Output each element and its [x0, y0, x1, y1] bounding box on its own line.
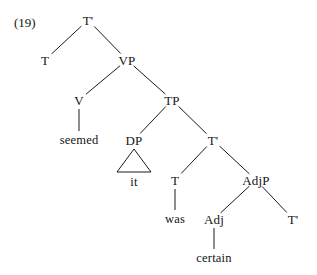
tree-node-dp: DP [125, 134, 142, 147]
tree-node-certain: certain [196, 252, 231, 265]
tree-edge-VP-V [86, 66, 120, 94]
tree-edge-Tbar-T [181, 147, 207, 174]
tree-node-tp: TP [164, 94, 180, 107]
tree-node-t: T [171, 174, 179, 187]
tree-edge-TP-Tbar [178, 106, 206, 133]
tree-node-tbar: T' [208, 134, 219, 147]
tree-node-tbar: T' [83, 14, 94, 27]
tree-edge-VP-TP [134, 66, 166, 94]
tree-node-vp: VP [118, 54, 135, 67]
tree-node-was: was [165, 213, 185, 226]
syntax-tree-figure: (19) T'TVPVTPseemedDPT'itTAdjPwasAdjT'ce… [0, 0, 317, 275]
tree-edge-Tbar-VP [94, 26, 120, 53]
tree-node-t: T [41, 54, 49, 67]
tree-edge-TP-DP [140, 107, 166, 134]
tree-node-seemed: seemed [60, 134, 99, 147]
tree-node-v: V [74, 94, 84, 107]
tree-edge-AdjP-Adj [221, 186, 250, 213]
tree-node-adj: Adj [204, 213, 224, 226]
tree-edge-Tbar-T [52, 26, 82, 54]
tree-node-adjp: AdjP [242, 174, 270, 187]
tree-node-it: it [130, 176, 137, 189]
tree-edge-AdjP-Tbar [262, 187, 287, 213]
triangle-group [117, 149, 151, 172]
tree-node-tbar: T' [288, 213, 299, 226]
tree-triangle-dp [117, 149, 151, 172]
tree-edges-canvas [0, 0, 317, 275]
tree-edge-Tbar-AdjP [220, 146, 250, 174]
